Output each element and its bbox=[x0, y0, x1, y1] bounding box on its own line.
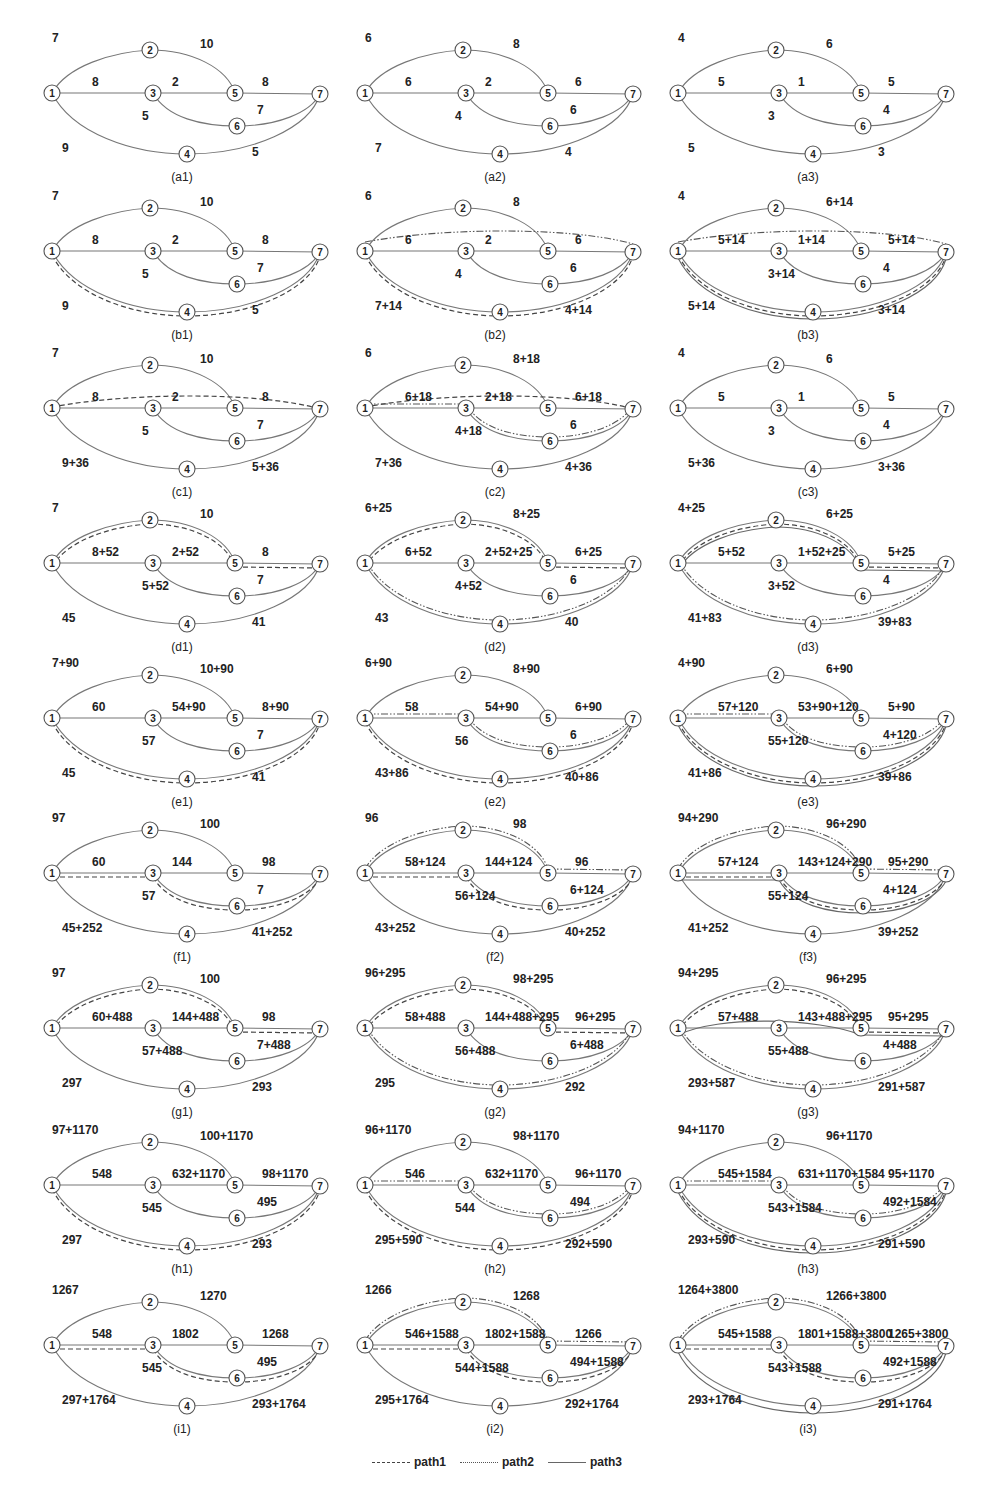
svg-text:4: 4 bbox=[184, 1401, 190, 1412]
path2-segment bbox=[548, 869, 633, 870]
svg-text:4: 4 bbox=[810, 929, 816, 940]
node-6: 6 bbox=[855, 743, 871, 759]
edge-3-6 bbox=[779, 93, 863, 126]
node-7: 7 bbox=[625, 401, 641, 417]
edge-weight-3-5: 2+52 bbox=[172, 546, 199, 559]
svg-text:6: 6 bbox=[860, 1373, 866, 1384]
svg-text:2: 2 bbox=[773, 515, 779, 526]
svg-text:4: 4 bbox=[184, 774, 190, 785]
node-2: 2 bbox=[455, 357, 471, 373]
edge-weight-3-5: 1+14 bbox=[798, 234, 825, 247]
legend-label: path3 bbox=[590, 1455, 622, 1469]
edge-weight-5-7: 1265+3800 bbox=[888, 1328, 948, 1341]
node-4: 4 bbox=[805, 926, 821, 942]
node-2: 2 bbox=[768, 1294, 784, 1310]
network-graph: 1234567 bbox=[22, 663, 342, 813]
edge-weight-3-6: 56+488 bbox=[455, 1045, 495, 1058]
svg-text:1: 1 bbox=[675, 558, 681, 569]
node-7: 7 bbox=[312, 711, 328, 727]
node-3: 3 bbox=[771, 1177, 787, 1193]
panel-a3: 1234567455613354(a3) bbox=[648, 38, 968, 188]
node-1: 1 bbox=[44, 1337, 60, 1353]
edge-weight-1-2: 4+25 bbox=[678, 502, 705, 515]
edge-weight-5-7: 8 bbox=[262, 76, 269, 89]
edge-5-7 bbox=[235, 563, 320, 564]
edge-weight-1-4: 9 bbox=[62, 142, 69, 155]
edge-weight-1-4: 295+1764 bbox=[375, 1394, 429, 1407]
svg-text:4: 4 bbox=[184, 1241, 190, 1252]
node-3: 3 bbox=[771, 1020, 787, 1036]
panel-caption: (e1) bbox=[22, 795, 342, 809]
svg-text:3: 3 bbox=[463, 1340, 469, 1351]
svg-text:5: 5 bbox=[545, 713, 551, 724]
edge-weight-1-4: 295 bbox=[375, 1077, 395, 1090]
edge-weight-3-6: 543+1588 bbox=[768, 1362, 822, 1375]
path1-segment bbox=[52, 255, 187, 316]
node-7: 7 bbox=[625, 1338, 641, 1354]
edge-weight-1-2: 6 bbox=[365, 190, 372, 203]
edge-weight-1-4: 5+14 bbox=[688, 300, 715, 313]
edge-weight-2-5: 96+290 bbox=[826, 818, 866, 831]
path2-segment bbox=[466, 1181, 550, 1214]
edge-weight-4-7: 4 bbox=[565, 146, 572, 159]
edge-weight-5-7: 98+1170 bbox=[262, 1168, 308, 1181]
edge-weight-1-3: 6 bbox=[405, 76, 412, 89]
panel-i2: 12345671266546+1588295+176412681802+1588… bbox=[335, 1290, 655, 1440]
svg-text:5: 5 bbox=[545, 558, 551, 569]
node-1: 1 bbox=[357, 1337, 373, 1353]
svg-text:4: 4 bbox=[810, 1084, 816, 1095]
node-2: 2 bbox=[455, 667, 471, 683]
svg-text:6: 6 bbox=[547, 591, 553, 602]
network-graph: 1234567 bbox=[335, 196, 655, 346]
edge-weight-6-7: 6 bbox=[570, 574, 577, 587]
svg-text:1: 1 bbox=[362, 403, 368, 414]
svg-text:1: 1 bbox=[675, 1180, 681, 1191]
edge-weight-3-6: 544+1588 bbox=[455, 1362, 509, 1375]
edge-weight-5-7: 1266 bbox=[575, 1328, 602, 1341]
network-graph: 1234567 bbox=[648, 38, 968, 188]
network-graph: 1234567 bbox=[648, 508, 968, 658]
node-6: 6 bbox=[229, 433, 245, 449]
node-3: 3 bbox=[145, 555, 161, 571]
edge-weight-3-6: 545 bbox=[142, 1202, 162, 1215]
panel-caption: (b1) bbox=[22, 328, 342, 342]
svg-text:7: 7 bbox=[317, 559, 323, 570]
edge-weight-5-7: 5+90 bbox=[888, 701, 915, 714]
edge-weight-3-5: 632+1170 bbox=[172, 1168, 225, 1181]
svg-text:4: 4 bbox=[497, 149, 503, 160]
edge-weight-1-3: 57+124 bbox=[718, 856, 758, 869]
edge-weight-4-7: 40+86 bbox=[565, 771, 599, 784]
edge-weight-1-3: 60 bbox=[92, 856, 105, 869]
edge-weight-3-6: 5 bbox=[142, 268, 149, 281]
node-6: 6 bbox=[542, 743, 558, 759]
node-4: 4 bbox=[492, 926, 508, 942]
node-5: 5 bbox=[853, 85, 869, 101]
node-2: 2 bbox=[142, 200, 158, 216]
svg-text:4: 4 bbox=[810, 1241, 816, 1252]
svg-text:7: 7 bbox=[630, 869, 636, 880]
svg-text:4: 4 bbox=[810, 464, 816, 475]
edge-weight-4-7: 3+14 bbox=[878, 304, 905, 317]
node-2: 2 bbox=[142, 357, 158, 373]
panel-h3: 123456794+1170545+1584293+59096+1170631+… bbox=[648, 1130, 968, 1280]
svg-text:2: 2 bbox=[147, 45, 153, 56]
node-1: 1 bbox=[357, 243, 373, 259]
node-1: 1 bbox=[670, 1020, 686, 1036]
node-1: 1 bbox=[357, 85, 373, 101]
edge-weight-3-6: 55+124 bbox=[768, 890, 808, 903]
node-6: 6 bbox=[855, 433, 871, 449]
svg-text:7: 7 bbox=[317, 404, 323, 415]
svg-text:2: 2 bbox=[773, 203, 779, 214]
svg-text:3: 3 bbox=[150, 1340, 156, 1351]
svg-text:7: 7 bbox=[943, 1341, 949, 1352]
node-4: 4 bbox=[492, 1081, 508, 1097]
svg-text:5: 5 bbox=[545, 88, 551, 99]
edge-5-7 bbox=[548, 563, 633, 564]
node-3: 3 bbox=[771, 555, 787, 571]
edge-1-4 bbox=[365, 93, 500, 154]
edge-3-6 bbox=[466, 1185, 550, 1218]
svg-text:7: 7 bbox=[630, 714, 636, 725]
network-graph: 1234567 bbox=[22, 508, 342, 658]
edge-5-7 bbox=[861, 1028, 946, 1029]
svg-text:4: 4 bbox=[497, 464, 503, 475]
